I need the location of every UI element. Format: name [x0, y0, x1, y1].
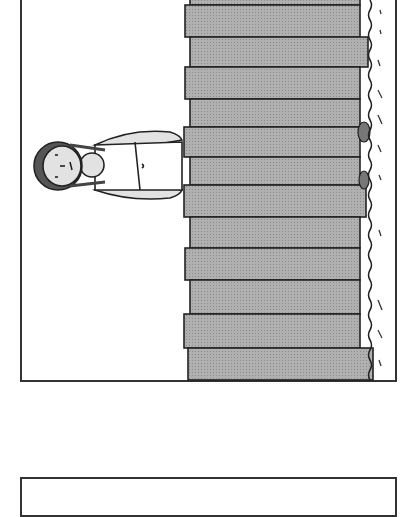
- grass-tufts: [378, 10, 382, 366]
- grass-line: [369, 0, 372, 380]
- foot: [359, 171, 369, 189]
- fence-planks: [184, 0, 373, 380]
- girl-figure: [34, 131, 182, 199]
- foot: [358, 122, 370, 142]
